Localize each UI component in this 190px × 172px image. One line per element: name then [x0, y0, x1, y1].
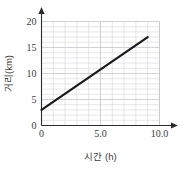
y-tick-label: 15: [27, 42, 37, 53]
y-tick-label: 0: [32, 120, 37, 131]
x-axis-title: 시간 (h): [84, 151, 116, 162]
line-chart-figure: 05.010.0 05101520 시간 (h) 거리(km): [0, 0, 190, 172]
x-tick-label: 10.0: [151, 128, 169, 139]
y-tick-label: 5: [32, 94, 37, 105]
x-axis-arrow-icon: [171, 122, 178, 128]
x-tick-labels: 05.010.0: [39, 128, 168, 139]
chart-canvas: 05.010.0 05101520 시간 (h) 거리(km): [0, 0, 190, 172]
y-tick-label: 20: [27, 16, 37, 27]
y-tick-label: 10: [27, 68, 37, 79]
x-tick-label: 0: [39, 128, 44, 139]
axes: [38, 7, 178, 129]
y-axis-arrow-icon: [38, 7, 44, 14]
y-axis-title: 거리(km): [3, 55, 14, 92]
y-tick-labels: 05101520: [27, 16, 37, 131]
x-tick-label: 5.0: [94, 128, 107, 139]
